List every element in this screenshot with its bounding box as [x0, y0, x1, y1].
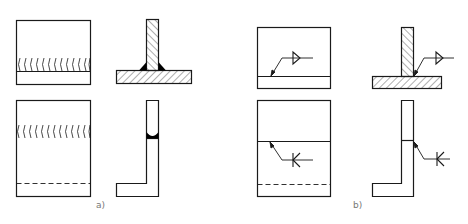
panel-b — [258, 28, 455, 197]
weld-seam-arcs — [18, 125, 91, 138]
panel-a-label: a) — [96, 200, 105, 210]
panel-b-corner-joint-section — [373, 101, 451, 197]
panel-a-bottom-front-view — [17, 101, 91, 197]
panel-b-label: b) — [353, 200, 362, 210]
panel-b-t-joint-section — [373, 28, 455, 89]
fillet-weld-right — [159, 62, 167, 71]
panel-a-top-front-view — [17, 21, 91, 85]
weld-symbol-leader — [270, 142, 313, 167]
welding-diagram — [0, 0, 468, 224]
butt-weld — [147, 132, 159, 139]
panel-b-bottom-front-view — [258, 101, 331, 197]
weld-symbol-leader — [414, 142, 450, 166]
weld-symbol-leader — [271, 52, 313, 76]
fillet-weld-left — [139, 62, 147, 71]
weld-seam-arcs — [19, 58, 91, 71]
panel-a-corner-joint-section — [117, 101, 159, 197]
panel-b-top-front-view — [258, 28, 331, 89]
panel-a-t-joint-section — [117, 20, 192, 84]
weld-symbol-leader — [414, 52, 454, 76]
panel-a — [17, 20, 192, 197]
arrow-icon — [414, 70, 418, 76]
